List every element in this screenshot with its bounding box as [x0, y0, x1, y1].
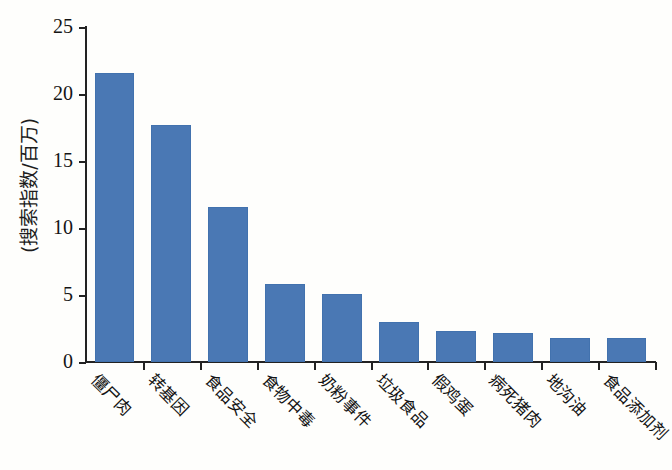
x-axis-labels: 僵尸肉转基因食品安全食物中毒奶粉事件垃圾食品假鸡蛋病死猪肉地沟油食品添加剂	[86, 364, 655, 470]
bar[interactable]	[95, 73, 135, 362]
bar[interactable]	[265, 284, 305, 362]
y-tick-mark	[79, 161, 86, 163]
y-tick-mark	[79, 295, 86, 297]
y-tick-label: 20	[53, 82, 73, 105]
x-axis-label: 转基因	[143, 368, 196, 421]
y-tick-label: 10	[53, 216, 73, 239]
y-axis-title-text: (搜索指数/百万)	[15, 117, 42, 252]
bar[interactable]	[322, 294, 362, 362]
y-tick-label: 0	[63, 350, 73, 373]
y-tick-label: 5	[63, 283, 73, 306]
y-tick-mark	[79, 94, 86, 96]
y-tick-mark	[79, 27, 86, 29]
bar[interactable]	[379, 322, 419, 362]
y-tick-label: 15	[53, 149, 73, 172]
bar[interactable]	[493, 333, 533, 362]
x-axis-label: 僵尸肉	[86, 368, 139, 421]
x-axis-label: 地沟油	[541, 368, 594, 421]
bar-chart-figure: (搜索指数/百万) 0510152025 僵尸肉转基因食品安全食物中毒奶粉事件垃…	[0, 0, 672, 470]
y-tick-mark	[79, 362, 86, 364]
x-axis-label: 奶粉事件	[314, 368, 378, 432]
bar[interactable]	[436, 331, 476, 362]
x-axis-label: 食物中毒	[257, 368, 321, 432]
bar[interactable]	[607, 338, 647, 362]
bar[interactable]	[550, 338, 590, 362]
plot-area: 0510152025	[86, 27, 655, 362]
y-tick-label: 25	[53, 15, 73, 38]
bar[interactable]	[151, 125, 191, 362]
x-axis-label: 食品添加剂	[598, 368, 672, 444]
x-axis-label: 假鸡蛋	[427, 368, 480, 421]
x-tick-mark	[655, 362, 657, 370]
x-axis-label: 垃圾食品	[371, 368, 435, 432]
bar[interactable]	[208, 207, 248, 362]
y-tick-mark	[79, 228, 86, 230]
x-axis-label: 病死猪肉	[484, 368, 548, 432]
y-axis-title: (搜索指数/百万)	[8, 0, 48, 370]
x-axis-label: 食品安全	[200, 368, 264, 432]
